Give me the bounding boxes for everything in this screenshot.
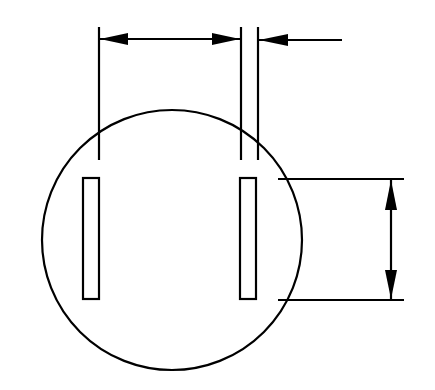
slot-length-dimension [385,180,397,299]
right-slot [240,178,256,299]
slot-spacing-dimension [100,33,240,45]
plug-face-circle [42,110,302,370]
plug-dimension-diagram [0,0,435,390]
slot-width-dimension [259,34,342,46]
left-slot [83,178,99,299]
